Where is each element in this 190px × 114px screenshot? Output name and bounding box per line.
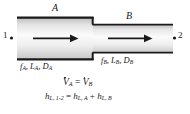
head-equals-sign: = — [64, 91, 74, 101]
section-a-label: A — [52, 3, 58, 13]
flow-equals-sign: = — [73, 77, 83, 87]
station-2-point-marker — [173, 36, 176, 39]
head-plus-sign: + — [88, 91, 98, 101]
flow-rate-a-symbol: V — [63, 78, 69, 88]
flow-rate-b-subscript: B — [89, 80, 93, 87]
head-loss-b-subscript: L, B — [102, 95, 112, 101]
pipe-series-figure: A B 1 2 fA, LA, DA fB, LB, DB VA = VB hL… — [0, 0, 190, 114]
volumetric-flow-equation: VA = VB — [63, 78, 92, 88]
station-1-point-marker — [10, 36, 13, 39]
head-loss-equation: hL, 1-2 = hL, A + hL, B — [45, 92, 112, 102]
diameter-a-subscript: A — [49, 65, 52, 71]
section-b-properties: fB, LB, DB — [101, 56, 133, 66]
flow-rate-b-symbol: V — [83, 78, 89, 88]
station-1-label: 1 — [3, 31, 8, 40]
section-a-properties: fA, LA, DA — [20, 62, 52, 72]
head-loss-total-subscript: L, 1-2 — [50, 95, 64, 101]
station-2-label: 2 — [178, 31, 183, 40]
diameter-b-subscript: B — [130, 59, 133, 65]
section-b-label: B — [126, 11, 132, 21]
head-loss-a-subscript: L, A — [78, 95, 88, 101]
